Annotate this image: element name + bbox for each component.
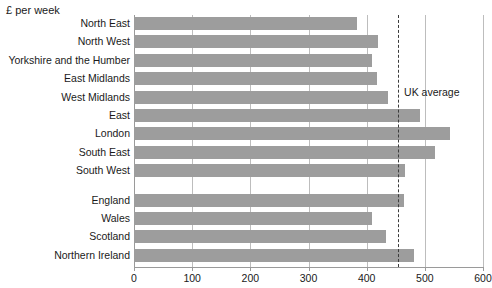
category-label: North East <box>80 16 130 30</box>
bar <box>134 164 405 177</box>
bar <box>134 17 357 30</box>
bar <box>134 212 372 225</box>
bar-row: London <box>134 127 483 140</box>
gridline-200 <box>250 15 251 267</box>
x-tick-0 <box>134 267 135 271</box>
x-tick-400 <box>367 267 368 271</box>
bar-row: Wales <box>134 212 483 225</box>
plot-area: North EastNorth WestYorkshire and the Hu… <box>134 15 483 267</box>
y-axis-line <box>134 15 135 267</box>
x-tick-600 <box>483 267 484 271</box>
bar-row: South West <box>134 164 483 177</box>
category-label: East Midlands <box>64 71 130 85</box>
bar-row: Yorkshire and the Humber <box>134 54 483 67</box>
x-tick-label-200: 200 <box>242 272 260 285</box>
gridline-300 <box>309 15 310 267</box>
category-label: South West <box>76 163 130 177</box>
x-tick-label-100: 100 <box>183 272 201 285</box>
bar-row: Scotland <box>134 230 483 243</box>
uk-average-line <box>398 15 399 267</box>
bar-row: Northern Ireland <box>134 249 483 262</box>
unit-caption: £ per week <box>6 4 60 17</box>
category-label: Wales <box>101 211 130 225</box>
bar-row: England <box>134 194 483 207</box>
gridline-500 <box>425 15 426 267</box>
x-tick-500 <box>425 267 426 271</box>
bar-row: East Midlands <box>134 72 483 85</box>
category-label: East <box>109 108 130 122</box>
bar <box>134 54 372 67</box>
gridline-100 <box>192 15 193 267</box>
gridline-600 <box>483 15 484 267</box>
bar-row: North East <box>134 17 483 30</box>
x-tick-200 <box>250 267 251 271</box>
bar <box>134 109 420 122</box>
category-label: Yorkshire and the Humber <box>8 53 130 67</box>
bar <box>134 35 378 48</box>
category-label: West Midlands <box>61 90 130 104</box>
category-label: London <box>95 126 130 140</box>
x-tick-label-600: 600 <box>474 272 492 285</box>
bar <box>134 127 450 140</box>
x-tick-label-300: 300 <box>300 272 318 285</box>
bar <box>134 72 377 85</box>
category-label: South East <box>79 145 130 159</box>
x-tick-label-500: 500 <box>416 272 434 285</box>
x-tick-100 <box>192 267 193 271</box>
category-label: Scotland <box>89 229 130 243</box>
bar <box>134 146 435 159</box>
gridline-400 <box>367 15 368 267</box>
bar <box>134 230 386 243</box>
uk-average-label: UK average <box>404 86 459 98</box>
bar <box>134 249 414 262</box>
bar-row: East <box>134 109 483 122</box>
bar-row: North West <box>134 35 483 48</box>
x-tick-300 <box>309 267 310 271</box>
category-label: England <box>91 193 130 207</box>
x-tick-label-400: 400 <box>358 272 376 285</box>
x-tick-label-0: 0 <box>131 272 137 285</box>
bar-row: South East <box>134 146 483 159</box>
bar <box>134 194 404 207</box>
category-label: Northern Ireland <box>54 248 130 262</box>
bar <box>134 91 388 104</box>
category-label: North West <box>78 34 130 48</box>
